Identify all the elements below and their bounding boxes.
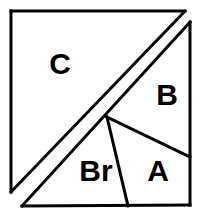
inner-bottom-edge-line	[22, 205, 190, 206]
region-label-br: Br	[79, 154, 113, 187]
region-label-c: C	[49, 47, 71, 80]
figure-canvas: C B Br A	[0, 0, 205, 221]
region-label-a: A	[147, 154, 169, 187]
region-label-b: B	[156, 78, 178, 111]
geometric-figure: C B Br A	[0, 0, 205, 221]
